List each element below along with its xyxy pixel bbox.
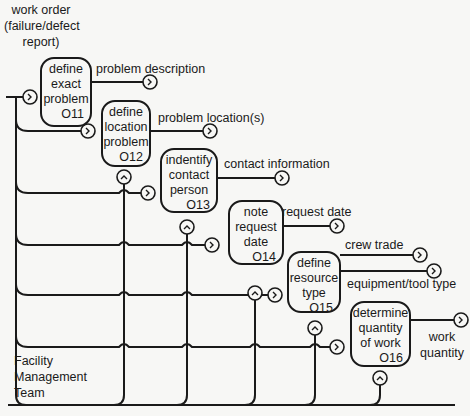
output-label-line: quantity [416,345,468,361]
output-label-problem-description: problem description [96,62,205,76]
output-label-line: work [416,329,468,345]
output-label-work-quantity: work quantity [416,329,468,361]
activity-text: problem [42,92,90,107]
activity-id: O11 [42,107,90,122]
activity-text: person [162,183,216,198]
activity-text: date [230,235,282,250]
activity-o14[interactable]: note request date O14 [228,200,284,265]
activity-id: O16 [352,351,409,366]
activity-text: define [42,62,90,77]
mechanism-label-line: Facility [14,353,87,369]
activity-id: O12 [103,150,149,165]
activity-o11[interactable]: define exact problem O11 [40,57,92,127]
activity-o12[interactable]: define location problem O12 [101,100,151,167]
input-label: work order (failure/defect report) [4,2,78,50]
activity-text: quantity [352,321,409,336]
activity-id: O13 [162,198,216,213]
activity-text: location [103,120,149,135]
activity-text: resource [289,271,339,286]
output-label-equipment-tool-type: equipment/tool type [347,277,456,291]
mechanism-label-line: Team [14,385,87,401]
activity-text: note [230,205,282,220]
activity-text: exact [42,77,90,92]
activity-id: O14 [230,250,282,265]
output-label-request-date: request date [282,205,352,219]
activity-text: define [289,256,339,271]
activity-text: type [289,286,339,301]
activity-text: indentify [162,153,216,168]
activity-text: contact [162,168,216,183]
activity-text: of work [352,336,409,351]
output-label-crew-trade: crew trade [345,238,403,252]
activity-id: O15 [289,301,339,316]
output-label-contact-information: contact information [224,157,330,171]
activity-o16[interactable]: determine quantity of work O16 [350,301,411,367]
activity-o13[interactable]: indentify contact person O13 [160,148,218,213]
activity-text: problem [103,135,149,150]
mechanism-label: Facility Management Team [14,353,87,401]
input-label-line: (failure/defect [4,18,78,34]
activity-text: request [230,220,282,235]
input-label-line: work order [4,2,78,18]
output-label-problem-location: problem location(s) [158,111,264,125]
activity-o15[interactable]: define resource type O15 [287,251,341,313]
input-label-line: report) [4,34,78,50]
activity-text: determine [352,306,409,321]
activity-text: define [103,105,149,120]
mechanism-label-line: Management [14,369,87,385]
